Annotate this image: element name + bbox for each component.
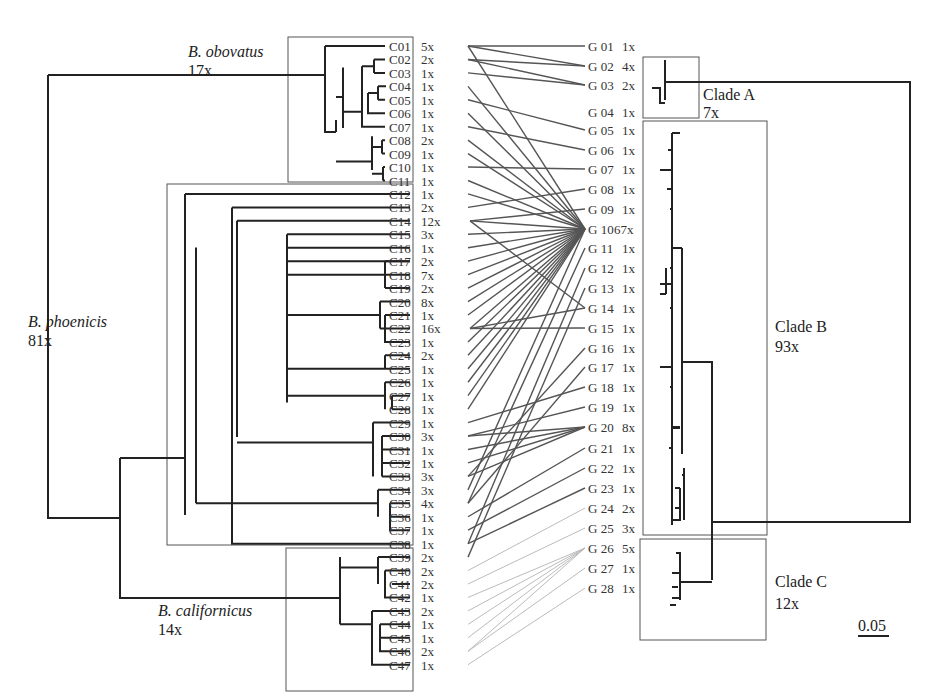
- left-taxon-label: C46: [389, 645, 411, 658]
- association-link: [468, 167, 585, 169]
- left-taxon-label: C11: [389, 175, 410, 188]
- clade-label-c: Clade C: [775, 573, 827, 591]
- left-taxon-count: 1x: [421, 188, 434, 201]
- left-taxon-count: 3x: [421, 430, 434, 443]
- right-taxon-count: 1x: [622, 40, 635, 53]
- tree-branch: [368, 86, 386, 113]
- left-taxon-count: 12x: [421, 215, 441, 228]
- left-taxon-label: C22: [389, 322, 411, 335]
- association-link: [468, 548, 585, 611]
- association-link: [468, 528, 585, 584]
- right-taxon-count: 1x: [622, 562, 635, 575]
- right-taxon-count: 67x: [614, 223, 634, 236]
- left-taxon-count: 1x: [421, 538, 434, 551]
- left-taxon-label: C29: [389, 417, 411, 430]
- tree-branch: [660, 133, 682, 525]
- association-link: [468, 229, 585, 315]
- left-taxon-count: 1x: [421, 148, 434, 161]
- right-taxon-count: 1x: [622, 282, 635, 295]
- left-taxon-label: C39: [389, 551, 411, 564]
- left-taxon-count: 1x: [421, 175, 434, 188]
- left-taxon-count: 1x: [421, 67, 434, 80]
- right-taxon-count: 1x: [622, 462, 635, 475]
- right-taxon-count: 1x: [622, 203, 635, 216]
- right-taxon-count: 1x: [622, 262, 635, 275]
- right-taxon-label: G 22: [588, 462, 614, 475]
- left-taxon-label: C28: [389, 403, 411, 416]
- left-taxon-label: C42: [389, 591, 411, 604]
- tree-branch: [652, 60, 910, 522]
- left-taxon-label: C45: [389, 632, 411, 645]
- left-taxon-count: 2x: [421, 53, 434, 66]
- left-taxon-count: 1x: [421, 376, 434, 389]
- left-taxon-label: C47: [389, 659, 411, 672]
- left-taxon-label: C04: [389, 80, 411, 93]
- association-link: [468, 229, 585, 302]
- association-link: [468, 100, 585, 130]
- association-link: [468, 229, 585, 355]
- left-taxon-label: C25: [389, 363, 411, 376]
- left-taxon-label: C23: [389, 336, 411, 349]
- right-taxon-count: 1x: [622, 342, 635, 355]
- left-taxon-label: C40: [389, 565, 411, 578]
- left-taxon-label: C13: [389, 201, 411, 214]
- right-taxon-label: G 04: [588, 106, 614, 119]
- right-taxon-count: 1x: [622, 401, 635, 414]
- left-taxon-count: 1x: [421, 524, 434, 537]
- tree-branch: [48, 75, 325, 518]
- right-taxon-label: G 14: [588, 302, 614, 315]
- left-taxon-count: 3x: [421, 484, 434, 497]
- tree-branch: [237, 423, 410, 477]
- tanglegram: [0, 0, 945, 698]
- right-taxon-count: 1x: [622, 302, 635, 315]
- clade-label-obovatus: B. obovatus: [188, 43, 264, 61]
- right-taxon-label: G 15: [588, 322, 614, 335]
- left-taxon-count: 1x: [421, 107, 434, 120]
- right-taxon-label: G 02: [588, 60, 614, 73]
- right-taxon-count: 1x: [622, 163, 635, 176]
- tree-branch: [185, 194, 410, 515]
- tree-branch: [120, 458, 340, 598]
- left-taxon-count: 5x: [421, 40, 434, 53]
- right-taxon-label: G 11: [588, 242, 613, 255]
- left-taxon-count: 2x: [421, 645, 434, 658]
- clade-count-a: 7x: [703, 104, 719, 122]
- left-taxon-count: 1x: [421, 632, 434, 645]
- right-taxon-label: G 01: [588, 40, 614, 53]
- left-taxon-label: C35: [389, 497, 411, 510]
- right-taxon-count: 1x: [622, 242, 635, 255]
- left-taxon-label: C24: [389, 349, 411, 362]
- right-taxon-count: 2x: [622, 502, 635, 515]
- clade-count-phoenicis: 81x: [28, 332, 52, 350]
- left-taxon-count: 2x: [421, 134, 434, 147]
- left-taxon-count: 1x: [421, 659, 434, 672]
- left-taxon-label: C21: [389, 309, 411, 322]
- left-taxon-count: 7x: [421, 269, 434, 282]
- left-taxon-count: 1x: [421, 591, 434, 604]
- left-taxon-label: C19: [389, 282, 411, 295]
- association-link: [468, 268, 585, 544]
- right-taxon-label: G 12: [588, 262, 614, 275]
- left-taxon-label: C15: [389, 228, 411, 241]
- right-taxon-label: G 09: [588, 203, 614, 216]
- right-taxon-count: 1x: [622, 482, 635, 495]
- left-taxon-count: 1x: [421, 444, 434, 457]
- right-taxon-count: 1x: [622, 582, 635, 595]
- right-taxon-count: 2x: [622, 79, 635, 92]
- association-link: [468, 127, 585, 150]
- left-taxon-label: C08: [389, 134, 411, 147]
- left-taxon-count: 1x: [421, 390, 434, 403]
- right-taxon-label: G 18: [588, 381, 614, 394]
- clade-label-b: Clade B: [775, 318, 827, 336]
- right-taxon-label: G 23: [588, 482, 614, 495]
- left-taxon-label: C27: [389, 390, 411, 403]
- right-taxon-label: G 24: [588, 502, 614, 515]
- left-taxon-count: 1x: [421, 363, 434, 376]
- left-taxon-label: C37: [389, 524, 411, 537]
- right-taxon-count: 1x: [622, 442, 635, 455]
- left-taxon-count: 3x: [421, 228, 434, 241]
- left-taxon-label: C20: [389, 296, 411, 309]
- box-clade-c: [640, 539, 766, 640]
- right-taxon-count: 8x: [622, 421, 635, 434]
- right-taxon-count: 1x: [622, 106, 635, 119]
